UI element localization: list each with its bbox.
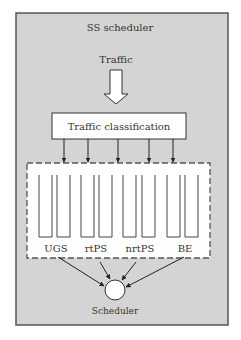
traffic-label: Traffic <box>99 54 133 65</box>
be-label: BE <box>178 243 193 254</box>
rtps-label: rtPS <box>85 243 108 254</box>
nrtps-label: nrtPS <box>126 243 155 254</box>
scheduler-label: Scheduler <box>92 306 139 316</box>
scheduler-node <box>105 280 125 300</box>
traffic-classification-label: Traffic classification <box>68 121 171 132</box>
ss-scheduler-diagram: SS scheduler Traffic Traffic classificat… <box>0 0 241 340</box>
ugs-label: UGS <box>44 243 67 254</box>
panel-title: SS scheduler <box>87 22 154 33</box>
